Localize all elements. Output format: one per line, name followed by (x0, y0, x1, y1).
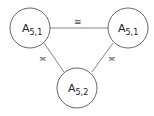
edge-label-asymp-left: ≍ (39, 54, 47, 64)
graph-diagram: A5,1 A5,1 A5,2 ≅ ≍ ≍ (0, 0, 154, 116)
edge-label-asymp-right: ≍ (108, 54, 116, 64)
edge-left-bottom (44, 43, 64, 72)
edge-label-congruent: ≅ (74, 17, 82, 27)
